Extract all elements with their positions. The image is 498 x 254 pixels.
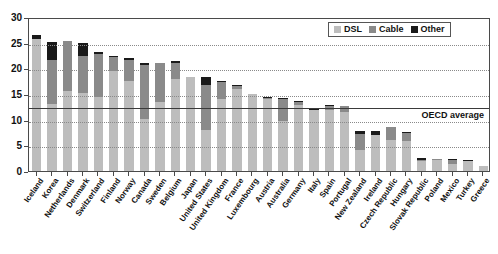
gridline — [29, 122, 489, 123]
bar-segment-dsl — [217, 99, 227, 171]
bar-segment-dsl — [155, 102, 165, 171]
x-tick-mark — [159, 172, 160, 176]
x-tick-mark — [482, 172, 483, 176]
x-tick-mark — [113, 172, 114, 176]
bar-segment-other — [140, 63, 150, 65]
bar-segment-cable — [417, 160, 427, 161]
bar-segment-dsl — [201, 130, 211, 171]
bar-segment-other — [109, 56, 119, 57]
bar-segment-cable — [294, 102, 304, 105]
broadband-penetration-chart: OECD average 051015202530 IcelandKoreaNe… — [0, 0, 498, 254]
legend-swatch-cable-icon — [369, 26, 376, 33]
bar-segment-dsl — [463, 161, 473, 171]
bar-segment-cable — [47, 60, 57, 105]
bar-segment-dsl — [448, 164, 458, 171]
x-tick-mark — [174, 172, 175, 176]
bar-segment-cable — [432, 159, 442, 160]
bar-segment-other — [402, 132, 412, 133]
bar-segment-other — [263, 97, 273, 98]
x-tick-mark — [421, 172, 422, 176]
legend-item-cable[interactable]: Cable — [369, 25, 404, 34]
bar-segment-other — [124, 58, 134, 60]
bar-segment-dsl — [47, 104, 57, 171]
bar-segment-other — [325, 105, 335, 106]
bar-segment-dsl — [232, 89, 242, 171]
y-tick-mark — [24, 69, 28, 70]
legend-label: DSL — [344, 25, 362, 34]
bar-segment-dsl — [479, 166, 489, 171]
bar-segment-dsl — [140, 119, 150, 171]
bar-segment-dsl — [355, 150, 365, 171]
bar-segment-other — [294, 101, 304, 102]
x-tick-mark — [51, 172, 52, 176]
bar-segment-dsl — [186, 77, 196, 171]
bar-segment-dsl — [325, 110, 335, 171]
bar-segment-cable — [63, 41, 73, 91]
x-tick-mark — [205, 172, 206, 176]
bar-segment-dsl — [124, 81, 134, 171]
oecd-average-rule — [29, 108, 489, 109]
bar-segment-dsl — [417, 161, 427, 171]
gridline — [29, 96, 489, 97]
x-tick-mark — [328, 172, 329, 176]
bar-segment-other — [417, 158, 427, 160]
bar-segment-cable — [109, 57, 119, 71]
x-tick-mark — [267, 172, 268, 176]
x-tick-mark — [452, 172, 453, 176]
y-tick-mark — [24, 44, 28, 45]
bar-segment-dsl — [78, 93, 88, 171]
y-tick-mark — [24, 121, 28, 122]
x-tick-mark — [221, 172, 222, 176]
legend-label: Cable — [379, 25, 404, 34]
bar-segment-dsl — [309, 110, 319, 171]
x-tick-mark — [282, 172, 283, 176]
y-tick-label: 5 — [0, 141, 22, 151]
bar-segment-dsl — [171, 79, 181, 171]
legend-label: Other — [421, 25, 445, 34]
bar-segment-cable — [386, 127, 396, 140]
y-tick-mark — [24, 18, 28, 19]
bar-segment-dsl — [386, 140, 396, 171]
x-tick-mark — [236, 172, 237, 176]
bar-segment-cable — [263, 98, 273, 99]
x-tick-mark — [298, 172, 299, 176]
bar-segment-other — [94, 52, 104, 54]
gridline — [29, 147, 489, 148]
x-tick-mark — [375, 172, 376, 176]
x-tick-mark — [36, 172, 37, 176]
y-tick-label: 0 — [0, 167, 22, 177]
bar-segment-other — [201, 77, 211, 86]
bar-segment-dsl — [248, 94, 258, 172]
bar-segment-other — [463, 160, 473, 161]
legend-swatch-other-icon — [411, 26, 418, 33]
plot-area: OECD average — [28, 18, 490, 172]
bar-segment-dsl — [371, 135, 381, 171]
x-tick-mark — [313, 172, 314, 176]
x-tick-mark — [405, 172, 406, 176]
legend-item-other[interactable]: Other — [411, 25, 445, 34]
bar-segment-cable — [78, 56, 88, 93]
bar-segment-other — [171, 61, 181, 63]
legend-swatch-dsl-icon — [334, 26, 341, 33]
bar-segment-dsl — [402, 141, 412, 171]
bar-segment-cable — [448, 160, 458, 164]
x-tick-mark — [190, 172, 191, 176]
chart-legend: DSLCableOther — [328, 22, 451, 37]
bar-segment-other — [278, 98, 288, 99]
bar-segment-cable — [402, 133, 412, 141]
bar-segment-other — [355, 131, 365, 133]
y-tick-label: 25 — [0, 39, 22, 49]
y-tick-label: 15 — [0, 90, 22, 100]
x-tick-mark — [467, 172, 468, 176]
bar-segment-other — [217, 81, 227, 82]
y-tick-label: 10 — [0, 116, 22, 126]
bar-segment-dsl — [432, 160, 442, 171]
x-tick-mark — [359, 172, 360, 176]
bar-segment-dsl — [63, 91, 73, 171]
x-tick-mark — [144, 172, 145, 176]
bar-segment-cable — [140, 65, 150, 119]
bar-segment-other — [232, 85, 242, 86]
legend-item-dsl[interactable]: DSL — [334, 25, 362, 34]
y-tick-mark — [24, 172, 28, 173]
gridline — [29, 70, 489, 71]
